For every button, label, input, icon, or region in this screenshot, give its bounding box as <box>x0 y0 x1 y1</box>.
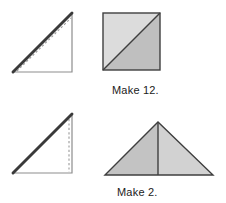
thick-fold-edge <box>13 13 72 72</box>
thick-fold-edge <box>13 114 72 173</box>
caption-make-12: Make 12. <box>112 84 159 96</box>
dashed-stitch-line <box>17 18 71 71</box>
caption-make-2: Make 2. <box>117 186 158 198</box>
result-unit-figure-row-2 <box>95 106 226 186</box>
diagram-canvas: Make 12. Make 2. <box>0 0 226 203</box>
flying-geese-triangle-svg <box>95 106 226 186</box>
